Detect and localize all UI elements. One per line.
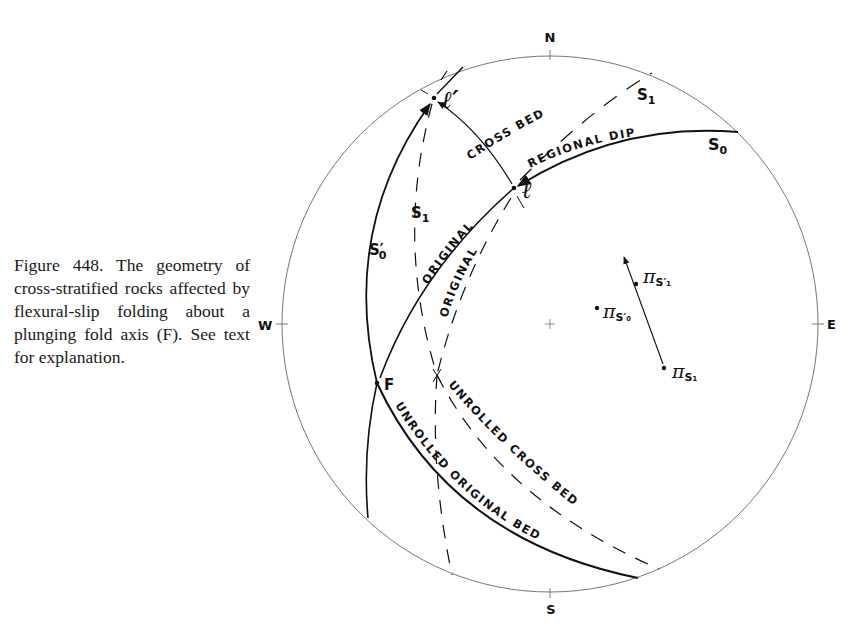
stereonet-diagram: N S E W ℓ′ ℓ F S1 S0 S′0 S1 CR [0,0,850,623]
pi-s1-prime-point [634,282,638,286]
l-prime-point [432,96,437,101]
pi-s1-label: πS₁ [671,360,697,384]
s0-label: S0 [708,135,728,157]
south-label: S [546,602,555,617]
west-label: W [258,318,272,333]
pi-s0-prime-label: πS′₀ [602,300,631,324]
unrolled-original-bed-label: UNROLLED ORIGINAL BED [392,399,543,543]
s1-left-label: S1 [411,204,429,225]
l-point [512,186,517,191]
l-prime-tick-2 [441,71,447,80]
fold-axis-point [375,381,380,386]
fold-axis-label: F [384,376,394,394]
east-label: E [827,317,836,332]
original-bed-arc [380,188,514,378]
regional-dip-label: REGIONAL DIP [525,125,637,171]
pi-s1-prime-label: πS′₁ [642,265,671,289]
north-label: N [545,30,556,45]
pi-s0-prime-point [595,306,599,310]
l-prime-label: ℓ′ [442,85,459,114]
primitive-circle [276,50,824,598]
l-prime-tick-3 [421,90,428,94]
l-label: ℓ [522,175,532,204]
s0-prime-label: S′0 [369,241,387,262]
unrolled-original-bed-arc [377,383,638,578]
pi-s1-point [662,366,666,370]
s1-top-label: S1 [637,86,655,107]
s0-prime-arc-lower [366,383,377,518]
